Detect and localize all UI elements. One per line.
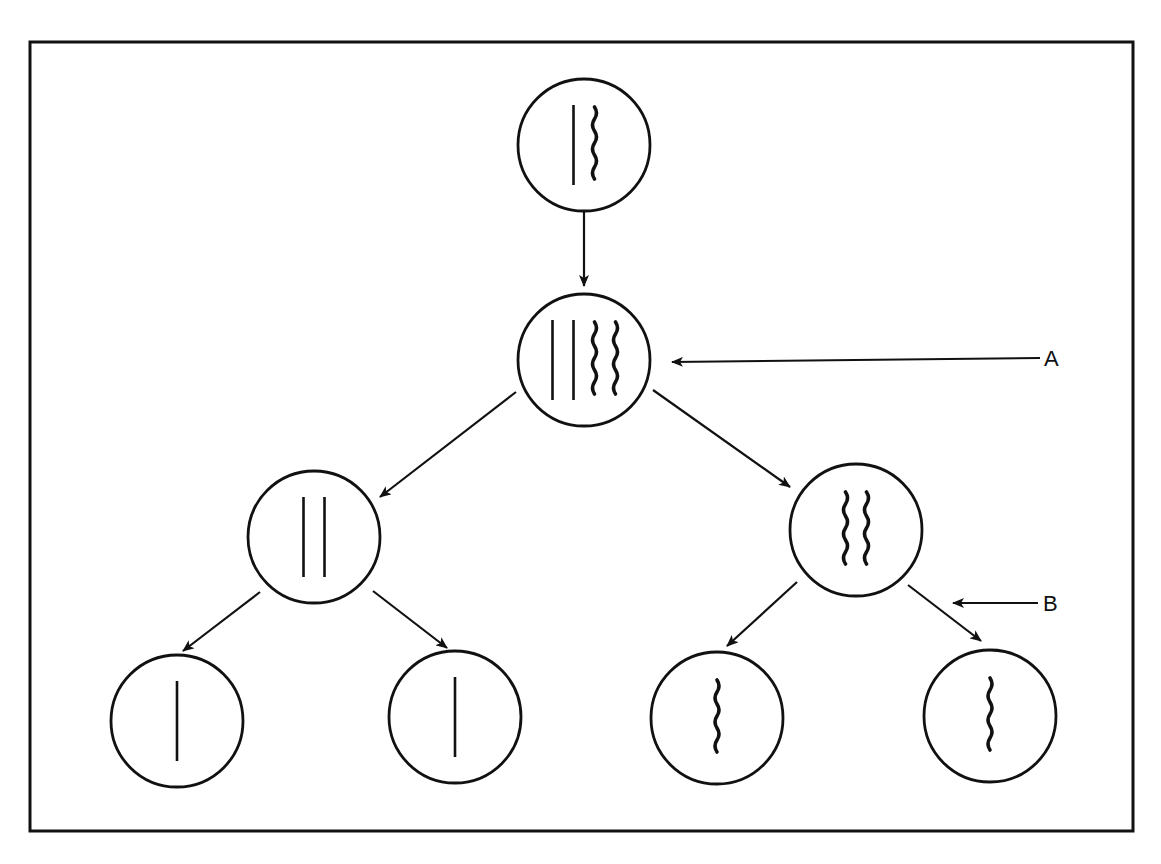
gamete-4 [924, 650, 1056, 782]
cell-membrane [518, 294, 650, 426]
replicated-cell [518, 294, 650, 426]
cell-membrane [790, 464, 922, 596]
arrow-daughter-cell-right-to-gamete-3 [727, 582, 797, 646]
daughter-cell-left [248, 471, 380, 603]
gamete-3 [651, 652, 783, 784]
arrow-replicated-cell-to-daughter-cell-right [653, 390, 790, 487]
pointer-b: B [953, 591, 1058, 616]
pointer-arrow [672, 358, 1040, 362]
cell-membrane [518, 79, 650, 211]
cell-membrane [248, 471, 380, 603]
parent-cell [518, 79, 650, 211]
arrow-daughter-cell-right-to-gamete-4 [908, 585, 981, 641]
pointer-label: B [1043, 591, 1058, 616]
arrow-replicated-cell-to-daughter-cell-left [380, 392, 516, 497]
gamete-2 [389, 651, 521, 783]
pointer-a: A [672, 346, 1059, 371]
gamete-1 [111, 655, 243, 787]
cell-division-diagram: AB [0, 0, 1161, 864]
arrow-daughter-cell-left-to-gamete-1 [183, 592, 260, 651]
arrow-daughter-cell-left-to-gamete-2 [373, 591, 447, 648]
daughter-cell-right [790, 464, 922, 596]
pointer-label: A [1044, 346, 1059, 371]
cells [111, 79, 1056, 787]
